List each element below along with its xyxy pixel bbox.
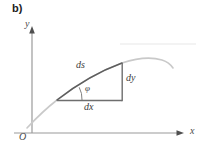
figure-container: b) y x O ds dy dx φ [0,0,206,160]
y-axis-label: y [25,19,29,29]
function-curve [27,58,173,128]
dy-label: dy [126,73,135,83]
y-axis-arrowhead [29,26,35,34]
ds-label: ds [76,60,85,70]
phi-angle-label: φ [85,84,90,93]
arc-length-segment-ds [57,63,122,100]
panel-letter-label: b) [12,3,22,14]
axes-group [14,26,184,136]
x-axis-arrowhead [177,130,185,136]
figure-drawing [0,0,206,160]
x-axis-label: x [190,126,194,136]
origin-label: O [19,132,26,142]
dx-label: dx [84,102,93,112]
angle-arc-phi [79,87,82,100]
